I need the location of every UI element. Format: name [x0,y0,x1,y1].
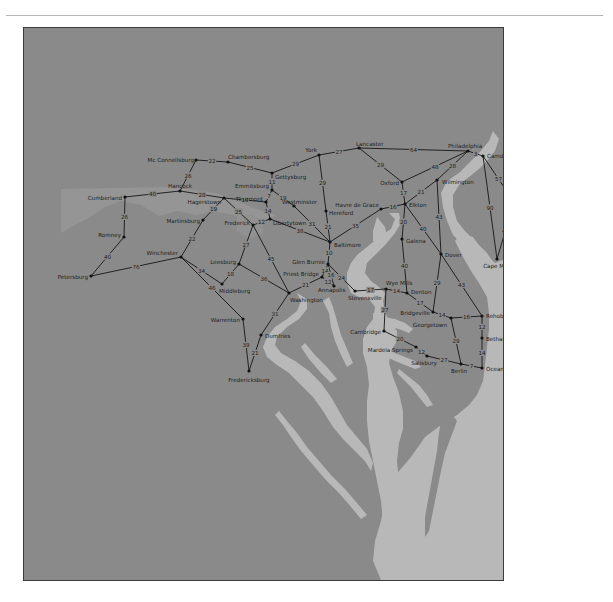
city-label-philadelphia: Philadelphia [448,143,482,150]
distance-label: 43 [435,214,443,220]
distance-label: 31 [271,311,279,317]
distance-label: 39 [242,342,250,348]
distance-label: 43 [458,282,466,288]
distance-label: 10 [325,250,333,256]
city-marker-icon [317,153,320,156]
distance-label: 48 [431,164,439,170]
city-label-mardelasprings: Mardela Springs [368,347,413,354]
city-marker-icon [382,329,385,332]
city-label-thurmont: Thurmont [235,196,264,202]
distance-label: 34 [198,268,206,274]
distance-label: 17 [400,190,408,196]
distance-label: 16 [327,272,335,278]
city-marker-icon [179,255,182,258]
distance-label: 14 [264,208,272,214]
city-marker-icon [320,275,323,278]
distance-label: 25 [235,209,243,215]
city-label-middleburg: Middleburg [219,288,251,295]
distance-label: 14 [393,288,401,294]
city-marker-icon [270,188,273,191]
distance-label: 12 [478,324,485,330]
city-label-priestbridge: Priest Bridge [283,271,319,278]
city-marker-icon [287,291,290,294]
city-marker-icon [247,369,250,372]
top-rule [6,15,603,16]
distance-label: 76 [132,264,140,270]
distance-label: 27 [381,307,389,313]
city-label-berlin: Berlin [451,368,468,374]
city-label-denton: Denton [411,289,432,295]
distance-label: 16 [389,204,397,210]
distance-label: 29 [377,162,385,168]
city-marker-icon [251,223,254,226]
city-marker-icon [459,362,462,365]
city-marker-icon [226,160,229,163]
city-label-warrenton: Warrenton [211,317,241,323]
city-label-frederick: Frederick [224,220,250,226]
city-marker-icon [89,274,92,277]
city-label-romney: Romney [98,232,121,239]
distance-label: 38 [296,228,304,234]
distance-label: 27 [440,357,448,363]
distance-label: 3 [474,151,478,157]
city-label-fredericksburg: Fredericksburg [228,377,270,384]
distance-label: 20 [400,219,408,225]
city-marker-icon [466,149,469,152]
city-label-libertytown: Libertytown [273,220,307,227]
city-label-martinsburg: Martinsburg [166,218,200,225]
distance-label: 14 [478,350,486,356]
city-label-rehobothbeach: Rehoboth Beach [486,313,503,319]
distance-label: 14 [438,312,446,318]
distance-label: 40 [419,226,427,232]
city-label-washington: Washington [290,297,323,304]
city-label-dumfries: Dumfries [265,333,291,339]
distance-label: 64 [410,147,418,153]
distance-label: 40 [149,191,157,197]
distance-label: 57 [495,176,503,182]
city-marker-icon [435,178,438,181]
distance-label: 25 [246,165,254,171]
city-marker-icon [480,336,483,339]
distance-label: 12 [418,349,425,355]
road-map: 2225292764326402811197191429213138294817… [24,28,503,580]
city-marker-icon [178,189,181,192]
distance-label: 40 [401,263,409,269]
distance-label: 21 [302,282,310,288]
city-label-wilmington: Wilmington [442,179,474,186]
distance-label: 43 [502,228,503,234]
distance-label: 27 [242,242,250,248]
city-marker-icon [241,317,244,320]
city-label-havredegrace: Havre de Grace [335,202,379,208]
city-label-cumberland: Cumberland [88,195,123,201]
city-marker-icon [400,180,403,183]
city-label-capemay: Cape May [483,263,503,270]
city-marker-icon [353,289,356,292]
distance-label: 29 [292,161,300,167]
city-label-leesburg: Leesburg [210,259,236,266]
city-label-salisbury: Salisbury [411,360,437,367]
city-label-glenburnie: Glen Burnie [292,259,325,265]
city-marker-icon [237,262,240,265]
distance-label: 29 [433,280,441,286]
city-label-oxford: Oxford [380,180,399,186]
distance-label: 12 [258,219,265,225]
distance-label: 29 [452,338,460,344]
distance-label: 31 [308,221,316,227]
distance-label: 24 [338,275,346,281]
city-marker-icon [403,202,406,205]
city-marker-icon [328,240,331,243]
map-frame: 2225292764326402811197191429213138294817… [23,27,504,581]
city-label-wyemills: Wye Mills [386,280,412,287]
distance-label: 7 [470,363,474,369]
city-label-emmitsburg: Emmitsburg [235,183,269,190]
city-marker-icon [264,200,267,203]
city-label-york: York [304,147,317,153]
distance-label: 40 [104,254,112,260]
city-label-gettysburg: Gettysburg [275,174,307,181]
city-label-hereford: Hereford [329,210,354,216]
distance-label: 22 [188,236,195,242]
city-label-oceancity: Ocean City [486,366,503,373]
distance-label: 35 [352,223,360,229]
city-marker-icon [431,310,434,313]
city-marker-icon [449,316,452,319]
